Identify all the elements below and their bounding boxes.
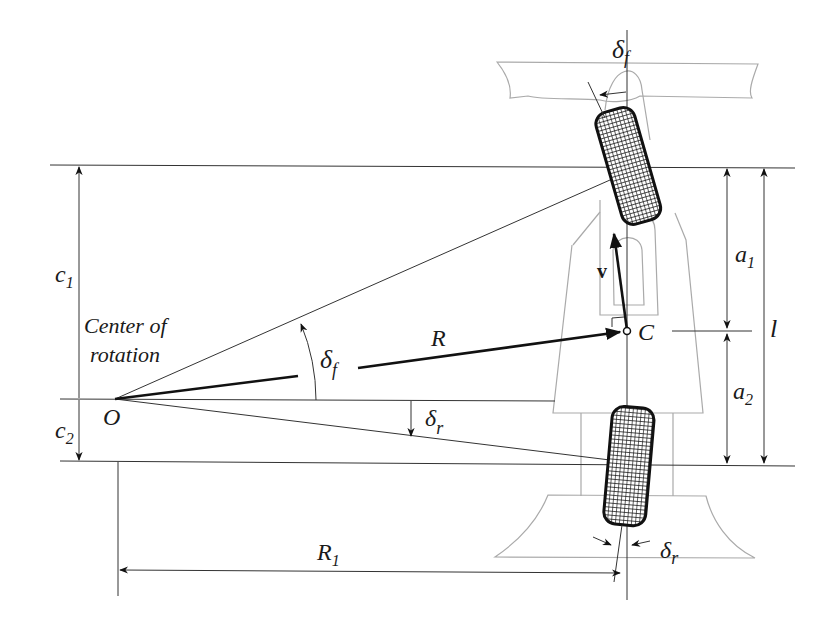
- point-o-label: O: [103, 404, 120, 430]
- velocity-label: v: [597, 260, 607, 282]
- cockpit-inner: [613, 238, 644, 305]
- delta-f-front-arc: [600, 92, 626, 95]
- r1-label: R1: [316, 539, 340, 569]
- point-c-label: C: [638, 319, 655, 345]
- r-vector-start: [115, 376, 298, 399]
- r1-dimension: [120, 570, 620, 573]
- delta-r-mid-label: δr: [425, 405, 444, 438]
- rear-tire: [603, 405, 655, 526]
- delta-r-bottom-label: δr: [660, 537, 679, 568]
- c2-label: c2: [55, 417, 74, 447]
- delta-f-arc: [301, 324, 316, 400]
- r-label: R: [430, 325, 446, 351]
- r-vector: [358, 332, 620, 368]
- center-of-rotation-label-2: rotation: [90, 342, 160, 367]
- delta-r-arrow-right: [632, 541, 650, 545]
- center-of-rotation-label-1: Center of: [84, 313, 169, 338]
- steering-geometry-diagram: δf c1 c2 Center of rotation O δf R δr v …: [0, 0, 840, 633]
- a1-label: a1: [735, 241, 755, 271]
- right-angle-marker: [612, 317, 624, 327]
- delta-r-arrow-left: [593, 537, 611, 545]
- l-label: l: [770, 314, 777, 343]
- main-body: [553, 212, 703, 413]
- front-axle-line: [50, 165, 795, 168]
- delta-f-mid-label: δf: [320, 345, 340, 380]
- a2-label: a2: [733, 378, 753, 408]
- rear-axle-line: [60, 461, 795, 466]
- rotation-center-line: [60, 399, 555, 401]
- point-c: [624, 328, 631, 335]
- delta-f-top-label: δf: [612, 35, 632, 68]
- front-tire: [593, 105, 663, 228]
- c1-label: c1: [55, 261, 74, 291]
- o-to-rear-wheel: [115, 399, 610, 460]
